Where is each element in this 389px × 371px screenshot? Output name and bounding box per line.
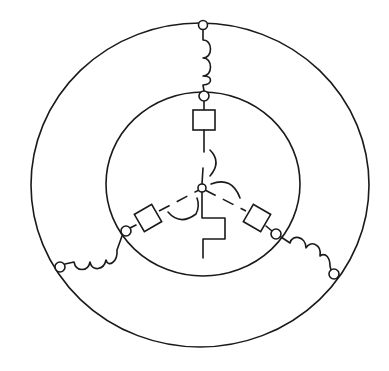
dashed-lead-right (205, 190, 246, 211)
terminal-node-inner-right (271, 229, 281, 239)
neutral-hub-node (198, 184, 206, 192)
arc-top (210, 150, 216, 176)
terminal-node-inner-left (121, 226, 131, 236)
square-resistor-top (193, 110, 215, 130)
ground-symbol (202, 192, 225, 258)
phase-left (55, 190, 199, 272)
terminal-node-inner-top (199, 91, 209, 101)
dashed-lead-left (159, 190, 199, 211)
connector (130, 225, 136, 228)
square-resistor-left (134, 204, 161, 231)
dashed-lead-top-2 (202, 168, 203, 184)
inductor-coil-right (281, 237, 331, 270)
terminal-node-outer-right (329, 269, 339, 279)
terminal-node-outer-left (55, 262, 65, 272)
winding-diagram (0, 0, 389, 371)
square-resistor-right (243, 204, 270, 231)
connector (266, 226, 272, 231)
inductor-coil-top (203, 29, 211, 91)
phase-top (193, 21, 216, 185)
arc-left (168, 198, 198, 220)
terminal-node-outer-top (199, 21, 208, 30)
inductor-coil-left (65, 236, 122, 270)
